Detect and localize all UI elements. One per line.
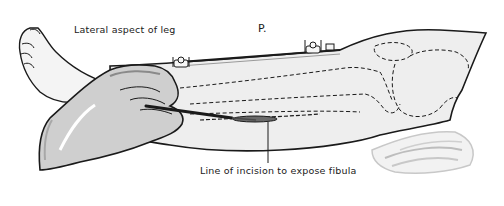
drape	[372, 132, 473, 173]
figure-title: Lateral aspect of leg	[74, 24, 176, 35]
surgical-illustration: Lateral aspect of leg P. Line of incisio…	[0, 0, 504, 206]
incision-caption: Line of incision to expose fibula	[200, 165, 357, 176]
plate-label: P.	[258, 22, 267, 35]
